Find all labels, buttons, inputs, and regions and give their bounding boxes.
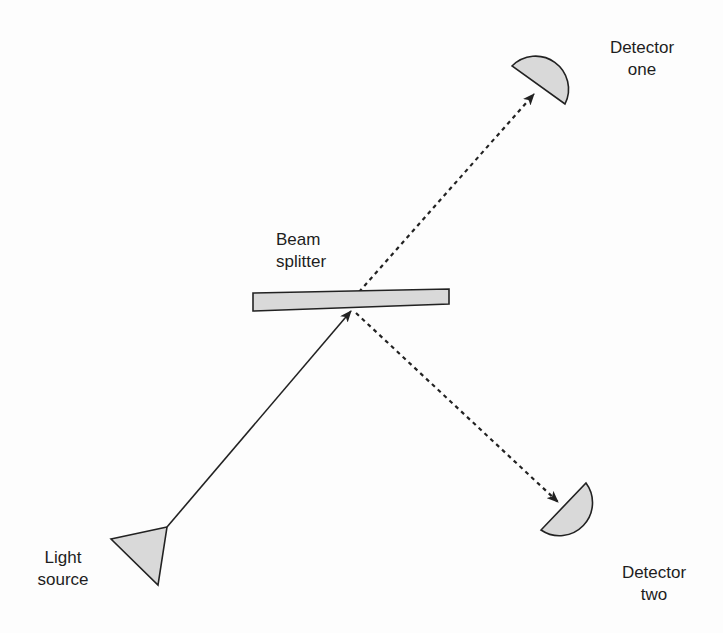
detector-one-label: Detector one <box>600 37 684 81</box>
light-source-label-line2: source <box>28 569 98 591</box>
beam-splitter-label: Beam splitter <box>276 229 326 273</box>
detector-one <box>512 56 569 104</box>
beam-splitter-diagram <box>0 0 723 633</box>
detector-two <box>541 483 593 536</box>
beam-splitter-label-line2: splitter <box>276 251 326 273</box>
detector-two-label: Detector two <box>612 562 696 606</box>
beam-splitter-label-line1: Beam <box>276 229 326 251</box>
light-source <box>111 527 167 585</box>
detector-two-label-line2: two <box>612 584 696 606</box>
reflected-beam <box>356 313 558 502</box>
light-source-label-line1: Light <box>28 547 98 569</box>
incident-beam <box>167 311 351 527</box>
transmitted-beam <box>359 94 534 292</box>
detector-one-label-line2: one <box>600 59 684 81</box>
beam-splitter <box>253 289 449 311</box>
detector-one-label-line1: Detector <box>600 37 684 59</box>
light-source-label: Light source <box>28 547 98 591</box>
detector-two-label-line1: Detector <box>612 562 696 584</box>
